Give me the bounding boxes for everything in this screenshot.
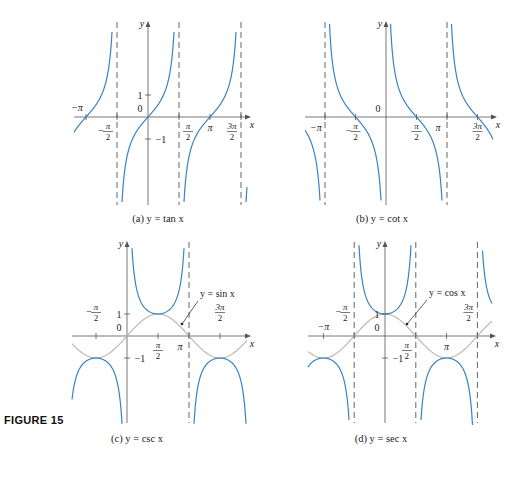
x-tick-label: −π — [71, 102, 84, 113]
figure-label: FIGURE 15 — [4, 414, 64, 426]
label: π — [106, 121, 111, 131]
y-axis-arrow-icon — [384, 21, 389, 27]
tick-label: −π2 — [346, 121, 361, 142]
label: 3π — [226, 121, 237, 131]
origin-label: 0 — [375, 322, 380, 333]
curve-sec — [308, 245, 492, 425]
label: π — [156, 340, 161, 350]
label: 2 — [156, 351, 161, 361]
aux-curve-label: y = sin x — [200, 288, 235, 299]
x-tick-label: π — [444, 341, 450, 352]
y-axis-label: y — [139, 18, 145, 29]
pointer-dot — [181, 323, 184, 326]
y-tick-label: −1 — [393, 353, 404, 364]
tick-label: −π2 — [98, 121, 113, 142]
label: − — [98, 125, 104, 136]
label: π — [186, 121, 191, 131]
x-tick-label: π — [435, 122, 441, 133]
chart-caption: (d) y = sec x — [355, 433, 408, 445]
curve-cot — [305, 24, 493, 201]
tick-label: 3π2 — [463, 302, 474, 323]
y-axis-label: y — [118, 238, 124, 249]
origin-label: 0 — [138, 103, 143, 114]
y-tick-label: −1 — [135, 353, 146, 364]
x-tick-label: −π — [318, 321, 331, 332]
label: π — [414, 121, 419, 131]
label: 2 — [414, 132, 419, 142]
tick-label: −π2 — [335, 302, 350, 323]
y-axis-label: y — [376, 238, 382, 249]
tick-label: −π2 — [86, 302, 101, 323]
chart-c: xy1−10−π2π2π3π2y = sin x(c) y = csc x — [72, 238, 255, 445]
y-axis-label: y — [377, 18, 383, 29]
label: 2 — [106, 132, 111, 142]
chart-caption: (c) y = csc x — [111, 433, 164, 445]
x-tick-label: π — [207, 122, 213, 133]
chart-b: xy0−π−π2π2π3π2(b) y = cot x — [305, 18, 501, 225]
label: 2 — [230, 132, 235, 142]
tick-label: 3π2 — [226, 121, 237, 142]
label: 2 — [343, 313, 348, 323]
label: − — [335, 306, 341, 317]
origin-label: 0 — [117, 322, 122, 333]
x-axis-label: x — [494, 338, 500, 349]
figure-plots: xy1−10−π−π2π2π3π2(a) y = tan xxy0−π−π2π2… — [0, 0, 528, 479]
chart-d: xy1−10−π−π2π2π3π2y = cos x(d) y = sec x — [308, 238, 500, 445]
y-axis-arrow-icon — [383, 241, 388, 247]
pointer-line — [182, 301, 198, 324]
tick-label: π2 — [412, 121, 422, 142]
pointer-dot — [406, 323, 409, 326]
chart-caption: (a) y = tan x — [132, 213, 184, 225]
label: 2 — [186, 132, 191, 142]
pointer-line — [407, 300, 427, 324]
y-axis-arrow-icon — [125, 241, 130, 247]
tick-label: 3π2 — [214, 302, 225, 323]
label: − — [86, 306, 92, 317]
origin-label: 0 — [376, 103, 381, 114]
y-axis-arrow-icon — [146, 21, 151, 27]
label: 2 — [353, 132, 358, 142]
label: 2 — [466, 313, 471, 323]
x-tick-label: −π — [310, 122, 323, 133]
chart-caption: (b) y = cot x — [356, 213, 409, 225]
tick-label: 3π2 — [472, 121, 483, 142]
aux-curve-label: y = cos x — [429, 287, 465, 298]
y-tick-label: 1 — [375, 309, 380, 320]
x-tick-label: π — [177, 341, 183, 352]
label: 2 — [94, 313, 99, 323]
x-axis-label: x — [249, 338, 255, 349]
label: 3π — [463, 302, 474, 312]
y-tick-label: −1 — [156, 134, 167, 145]
label: 2 — [218, 313, 223, 323]
label: π — [343, 302, 348, 312]
label: 2 — [405, 351, 410, 361]
tick-label: π2 — [183, 121, 193, 142]
label: π — [353, 121, 358, 131]
label: 3π — [472, 121, 483, 131]
y-tick-label: 1 — [138, 90, 143, 101]
label: − — [346, 125, 352, 136]
x-axis-label: x — [495, 119, 501, 130]
label: π — [405, 340, 410, 350]
label: 2 — [475, 132, 480, 142]
chart-a: xy1−10−π−π2π2π3π2(a) y = tan x — [71, 18, 255, 225]
y-tick-label: 1 — [117, 309, 122, 320]
label: 3π — [214, 302, 225, 312]
tick-label: π2 — [153, 340, 163, 361]
label: π — [94, 302, 99, 312]
x-axis-label: x — [249, 119, 255, 130]
